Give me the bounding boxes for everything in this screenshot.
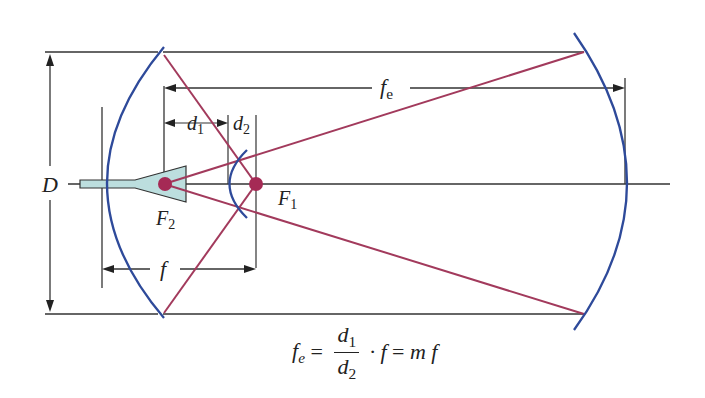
arrow-up-icon — [46, 54, 54, 66]
focal-length-formula: fe = d1 d2 · f = m f — [292, 322, 437, 382]
formula-numerator: d1 — [334, 322, 359, 353]
arrow-right-icon — [244, 265, 256, 273]
formula-lhs: fe — [292, 338, 305, 367]
arrow-left-icon — [102, 265, 114, 273]
formula-equals-2: = — [387, 339, 410, 365]
large-right-mirror — [574, 33, 627, 330]
arrow-left-icon — [164, 84, 176, 92]
ray-bottom-incoming-to-f1 — [164, 184, 256, 313]
focal-length-label: f — [160, 258, 166, 280]
ray-f2-to-bottom-right — [164, 184, 584, 314]
primary-focus-label: F1 — [278, 188, 297, 212]
ray-f2-to-top-right — [164, 52, 584, 184]
d1-label: d1 — [187, 113, 204, 137]
d2-label: d2 — [233, 113, 250, 137]
formula-rhs: m f — [410, 339, 438, 365]
effective-focal-length-label: fe — [380, 76, 393, 101]
arrow-down-icon — [46, 300, 54, 312]
formula-equals: = — [305, 339, 328, 365]
cassegrain-diagram: D fe d1 d2 F1 F2 f fe = d1 d2 · f = m f — [0, 0, 705, 398]
arrow-left-icon — [164, 119, 175, 127]
aperture-label: D — [42, 174, 58, 196]
arrow-right-icon — [613, 84, 625, 92]
formula-dot: · — [369, 339, 376, 365]
arrow-right-icon — [217, 119, 228, 127]
primary-focus-dot — [249, 177, 263, 191]
formula-fraction: d1 d2 — [334, 322, 359, 382]
secondary-focus-label: F2 — [156, 208, 175, 232]
secondary-focus-dot — [158, 177, 172, 191]
formula-denominator: d2 — [334, 353, 359, 383]
